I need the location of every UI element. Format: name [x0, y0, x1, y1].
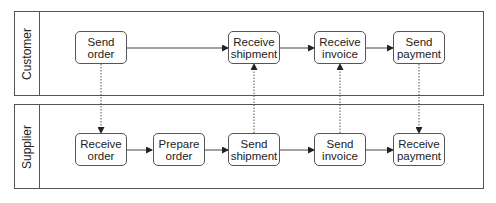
task-line1: Receive	[397, 138, 441, 150]
task-receive-payment[interactable]: Receivepayment	[393, 133, 445, 166]
task-line2: shipment	[231, 48, 278, 60]
task-receive-invoice[interactable]: Receiveinvoice	[314, 31, 366, 64]
task-line2: payment	[397, 150, 441, 162]
task-line1: Send	[88, 36, 115, 48]
task-send-order[interactable]: Sendorder	[75, 31, 127, 64]
task-line1: Send	[231, 138, 278, 150]
task-send-payment[interactable]: Sendpayment	[393, 31, 445, 64]
task-receive-shipment[interactable]: Receiveshipment	[228, 31, 280, 64]
task-line2: invoice	[319, 48, 361, 60]
task-line2: invoice	[322, 150, 358, 162]
task-line2: order	[159, 150, 200, 162]
task-line2: order	[88, 48, 115, 60]
task-line1: Prepare	[159, 138, 200, 150]
task-line1: Send	[397, 36, 441, 48]
task-line1: Receive	[231, 36, 278, 48]
task-send-invoice[interactable]: Sendinvoice	[314, 133, 366, 166]
task-prepare-order[interactable]: Prepareorder	[153, 133, 205, 166]
task-line1: Send	[322, 138, 358, 150]
task-line1: Receive	[80, 138, 122, 150]
task-receive-order[interactable]: Receiveorder	[75, 133, 127, 166]
task-line2: shipment	[231, 150, 278, 162]
task-line2: order	[80, 150, 122, 162]
task-line2: payment	[397, 48, 441, 60]
task-line1: Receive	[319, 36, 361, 48]
task-send-shipment[interactable]: Sendshipment	[228, 133, 280, 166]
